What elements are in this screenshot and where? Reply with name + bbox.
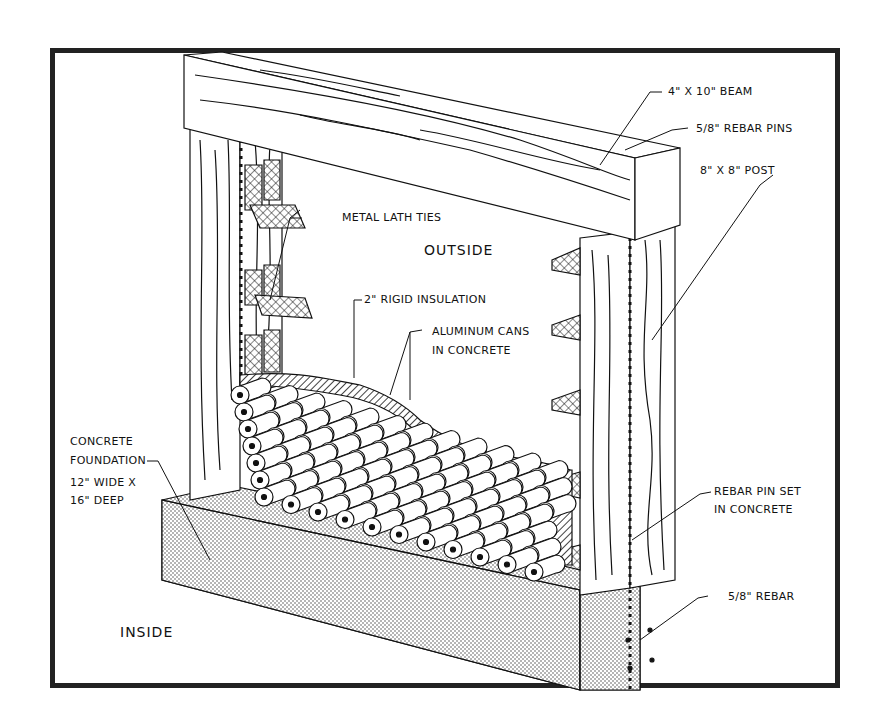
label-foundation-dim-2: 16" DEEP	[70, 494, 124, 508]
label-outside: OUTSIDE	[424, 243, 493, 257]
label-aluminum-cans-2: IN CONCRETE	[432, 344, 511, 358]
wall-diagram	[0, 0, 886, 719]
label-post: 8" X 8" POST	[700, 164, 775, 178]
label-inside: INSIDE	[120, 625, 173, 639]
metal-lath-ties-left	[245, 160, 312, 380]
label-foundation-2: FOUNDATION	[70, 454, 146, 468]
label-rebar: 5/8" REBAR	[728, 590, 795, 604]
label-foundation-dim-1: 12" WIDE X	[70, 476, 136, 490]
label-rigid-insulation: 2" RIGID INSULATION	[364, 293, 486, 307]
label-beam: 4" X 10" BEAM	[668, 85, 753, 99]
label-rebar-pins: 5/8" REBAR PINS	[696, 122, 793, 136]
label-rebar-pin-set-2: IN CONCRETE	[714, 503, 793, 517]
label-foundation-1: CONCRETE	[70, 435, 133, 449]
label-aluminum-cans-1: ALUMINUM CANS	[432, 325, 529, 339]
label-rebar-pin-set-1: REBAR PIN SET	[714, 485, 801, 499]
label-metal-lath-ties: METAL LATH TIES	[342, 211, 441, 225]
